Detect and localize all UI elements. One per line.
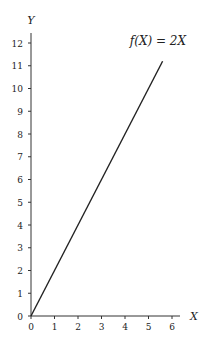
x-ticks: 0123456: [28, 316, 175, 332]
svg-text:4: 4: [17, 221, 23, 231]
svg-text:11: 11: [12, 61, 23, 71]
data-line: [31, 61, 163, 316]
svg-text:3: 3: [17, 243, 23, 253]
svg-text:2: 2: [17, 266, 23, 276]
svg-text:5: 5: [146, 322, 152, 332]
svg-text:4: 4: [122, 322, 128, 332]
svg-text:6: 6: [169, 322, 175, 332]
y-axis-label: Y: [27, 14, 36, 27]
svg-text:3: 3: [99, 322, 105, 332]
svg-text:8: 8: [17, 130, 23, 140]
function-annotation: f(X) = 2X: [129, 34, 187, 48]
svg-text:2: 2: [75, 322, 81, 332]
svg-text:9: 9: [17, 107, 23, 117]
svg-text:5: 5: [17, 198, 23, 208]
x-axis-label: X: [189, 310, 199, 323]
svg-text:1: 1: [17, 289, 23, 299]
svg-text:7: 7: [17, 152, 23, 162]
svg-text:12: 12: [12, 39, 23, 49]
chart: 0123456789101112 0123456 Y X f(X) = 2X: [0, 0, 209, 343]
svg-text:6: 6: [17, 175, 23, 185]
svg-text:10: 10: [12, 84, 24, 94]
svg-text:1: 1: [52, 322, 58, 332]
svg-text:0: 0: [17, 312, 23, 322]
y-ticks: 0123456789101112: [12, 39, 31, 322]
svg-text:0: 0: [28, 322, 34, 332]
